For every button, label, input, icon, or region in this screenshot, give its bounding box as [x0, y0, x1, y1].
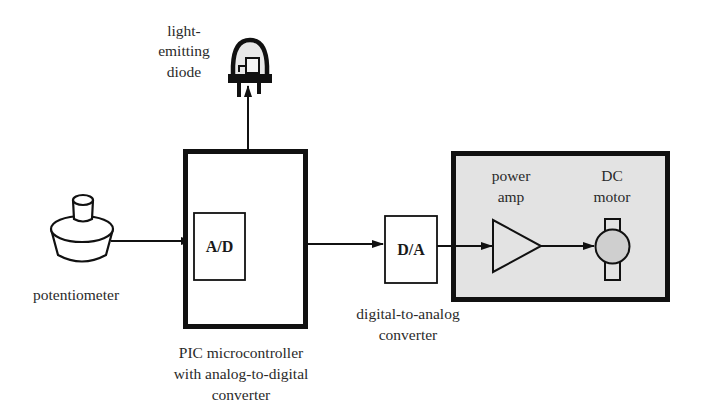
- potentiometer-icon: [51, 195, 113, 262]
- ad-converter-label: A/D: [206, 238, 234, 255]
- da-label-line-2: converter: [379, 326, 438, 343]
- da-label-line-1: digital-to-analog: [356, 305, 460, 322]
- pic-label-line-1: PIC microcontroller: [179, 344, 304, 361]
- pic-label: PIC microcontroller with analog-to-digit…: [174, 344, 309, 403]
- potentiometer-label: potentiometer: [33, 286, 120, 303]
- pic-label-line-2: with analog-to-digital: [174, 365, 309, 382]
- da-converter-block-label: D/A: [397, 241, 425, 258]
- led-label-line-2: emitting: [158, 42, 210, 59]
- dc-motor-label-line-2: motor: [593, 188, 631, 205]
- led-label-line-3: diode: [167, 63, 202, 80]
- power-amp-label-line-2: amp: [498, 188, 525, 205]
- dc-motor-label-line-1: DC: [601, 167, 623, 184]
- pic-motor-control-diagram: light- emitting diode potentiometer A/D …: [0, 0, 708, 406]
- led-label-line-1: light-: [167, 22, 201, 39]
- da-converter-label: digital-to-analog converter: [356, 305, 460, 343]
- output-stage-region: [454, 154, 668, 300]
- led-icon: [228, 40, 272, 97]
- power-amp-label-line-1: power: [492, 167, 532, 184]
- led-label: light- emitting diode: [158, 22, 210, 80]
- pic-label-line-3: converter: [212, 386, 271, 403]
